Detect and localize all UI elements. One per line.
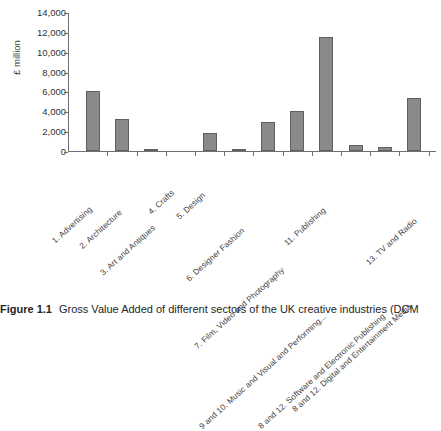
- bar: [232, 149, 246, 151]
- bar: [349, 145, 363, 151]
- bar: [378, 147, 392, 151]
- y-axis-tick-label: 4,000: [22, 107, 66, 117]
- bar: [261, 122, 275, 151]
- y-axis-tick-mark: [64, 53, 68, 54]
- x-axis-category-label: 8 and 12. Software and Electronic Publis…: [256, 312, 386, 431]
- bar-chart: £ million 14,00012,00010,0008,0006,0004,…: [0, 0, 441, 295]
- y-axis-tick-label: 6,000: [22, 87, 66, 97]
- figure-caption-text: Gross Value Added of different sectors o…: [59, 303, 419, 315]
- figure-caption: Figure 1.1Gross Value Added of different…: [0, 303, 441, 326]
- plot-area: [68, 13, 436, 152]
- x-axis-category-label: 4. Crafts: [147, 188, 177, 216]
- x-axis-category-label: 3. Art and Antiques: [99, 223, 158, 277]
- y-axis-tick-mark: [64, 112, 68, 113]
- y-axis-title: £ million: [11, 23, 22, 93]
- x-axis-category-label: 13. TV and Radio: [364, 217, 418, 267]
- bar: [203, 133, 217, 151]
- y-axis-tick-label: 14,000: [22, 8, 66, 18]
- bar: [86, 91, 100, 151]
- x-axis-category-labels: 1. Advertising2. Architecture3. Art and …: [0, 154, 441, 295]
- y-axis-tick-label: 8,000: [22, 68, 66, 78]
- y-axis-tick-mark: [64, 13, 68, 14]
- x-axis-category-label: 5. Design: [174, 190, 206, 220]
- y-axis-tick-mark: [64, 33, 68, 34]
- y-axis-tick-label: 12,000: [22, 28, 66, 38]
- y-axis-tick-label: 2,000: [22, 127, 66, 137]
- bar: [407, 98, 421, 151]
- y-axis-tick-label: 10,000: [22, 48, 66, 58]
- y-axis-tick-mark: [64, 73, 68, 74]
- bar: [144, 149, 158, 151]
- bar: [290, 111, 304, 151]
- x-axis-category-label: 6. Designer Fashion: [184, 226, 246, 283]
- y-axis-tick-mark: [64, 152, 68, 153]
- y-axis-tick-labels: 14,00012,00010,0008,0006,0004,0002,0000: [22, 6, 66, 160]
- bar: [115, 119, 129, 151]
- x-axis-category-label: 11. Publishing: [283, 206, 328, 248]
- y-axis-tick-mark: [64, 92, 68, 93]
- figure-caption-label: Figure 1.1: [0, 303, 52, 315]
- bar: [319, 37, 333, 151]
- bar-series: [68, 13, 436, 152]
- y-axis-tick-mark: [64, 132, 68, 133]
